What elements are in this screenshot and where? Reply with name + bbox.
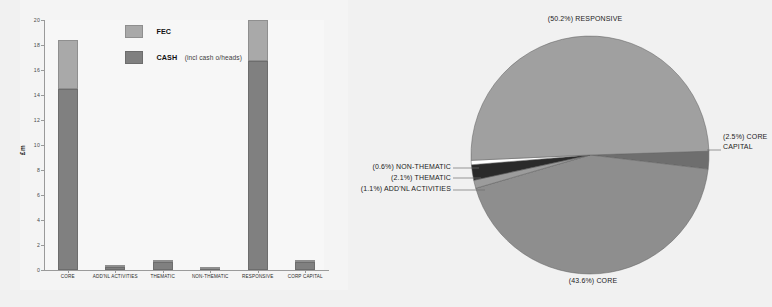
y-axis-tick-mark <box>41 120 44 121</box>
legend-swatch-fec-icon <box>125 25 143 38</box>
legend-item-fec: FEC <box>125 22 242 34</box>
pie-slice[interactable] <box>471 36 709 160</box>
bar-segment-fec[interactable] <box>153 260 173 262</box>
y-axis-tick-label: 18 <box>34 42 40 48</box>
y-axis-tick-mark <box>41 220 44 221</box>
y-axis-tick-label: 14 <box>34 92 40 98</box>
bar-group[interactable] <box>295 20 315 270</box>
y-axis-title: £m <box>19 145 26 155</box>
x-axis-tick-label: RESPONSIVE <box>242 274 273 279</box>
x-axis-tick-mark <box>68 270 69 273</box>
y-axis-tick-label: 6 <box>37 192 40 198</box>
pie-callout-non-thematic: (0.6%) NON-THEMATIC <box>372 162 451 172</box>
pie-chart-svg <box>380 0 772 307</box>
y-axis-line <box>44 20 45 270</box>
y-axis-tick-mark <box>41 145 44 146</box>
y-axis-tick-mark <box>41 270 44 271</box>
legend-sublabel-cash: (incl cash o/heads) <box>185 54 242 61</box>
chart-page: £m 02468101214161820 COREADD'NL ACTIVITI… <box>0 0 772 307</box>
y-axis-tick-mark <box>41 245 44 246</box>
bar-group[interactable] <box>248 20 268 270</box>
pie-callout-core-capital-line1: (2.5%) CORE <box>723 133 767 140</box>
legend-swatch-cash-icon <box>125 51 143 64</box>
bar-segment-cash[interactable] <box>153 262 173 270</box>
y-axis-tick-mark <box>41 95 44 96</box>
pie-callout-core: (43.6%) CORE <box>569 276 617 286</box>
legend-label-cash: CASH <box>156 53 177 62</box>
y-axis-tick-label: 12 <box>34 117 40 123</box>
y-axis-tick-label: 10 <box>34 142 40 148</box>
bar-segment-fec[interactable] <box>295 260 315 262</box>
y-axis-tick-label: 0 <box>37 267 40 273</box>
y-axis-tick-label: 8 <box>37 167 40 173</box>
pie-callout-responsive: (50.2%) RESPONSIVE <box>548 14 623 24</box>
x-axis-tick-mark <box>115 270 116 273</box>
bar-segment-fec[interactable] <box>58 40 78 89</box>
bar-group[interactable] <box>105 20 125 270</box>
bar-segment-cash[interactable] <box>58 89 78 270</box>
pie-slices-group <box>471 36 709 274</box>
pie-chart-panel: (50.2%) RESPONSIVE (43.6%) CORE (2.5%) C… <box>380 0 772 307</box>
x-axis-tick-mark <box>305 270 306 273</box>
legend-item-cash: CASH (incl cash o/heads) <box>125 48 242 60</box>
legend-label-fec: FEC <box>156 27 171 36</box>
bar-chart-panel: £m 02468101214161820 COREADD'NL ACTIVITI… <box>0 0 380 307</box>
y-axis-tick-mark <box>41 170 44 171</box>
bar-segment-fec[interactable] <box>105 265 125 267</box>
x-axis-tick-mark <box>258 270 259 273</box>
y-axis-tick-mark <box>41 70 44 71</box>
y-axis-tick-mark <box>41 20 44 21</box>
x-axis-tick-mark <box>163 270 164 273</box>
pie-callout-thematic: (2.1%) THEMATIC <box>391 173 451 183</box>
y-axis-tick-mark <box>41 195 44 196</box>
pie-callout-core-capital-line2: CAPITAL <box>723 143 753 150</box>
pie-callout-addnl-activities: (1.1%) ADD'NL ACTIVITIES <box>361 184 451 194</box>
y-axis-tick-label: 2 <box>37 242 40 248</box>
bar-segment-fec[interactable] <box>200 267 220 269</box>
x-axis-tick-label: CORP CAPITAL <box>288 274 323 279</box>
y-axis-tick-label: 4 <box>37 217 40 223</box>
bar-chart-legend: FEC CASH (incl cash o/heads) <box>125 22 242 74</box>
bar-group[interactable] <box>58 20 78 270</box>
y-axis-tick-mark <box>41 45 44 46</box>
x-axis-tick-label: CORE <box>61 274 75 279</box>
x-axis-tick-label: NON-THEMATIC <box>192 274 229 279</box>
pie-callout-core-capital: (2.5%) CORE CAPITAL <box>723 132 767 152</box>
x-axis-tick-label: ADD'NL ACTIVITIES <box>93 274 138 279</box>
bar-segment-cash[interactable] <box>295 262 315 270</box>
x-axis-line <box>44 270 329 271</box>
x-axis-tick-label: THEMATIC <box>151 274 175 279</box>
y-axis-tick-label: 16 <box>34 67 40 73</box>
bar-segment-fec[interactable] <box>248 20 268 61</box>
y-axis-tick-label: 20 <box>34 17 40 23</box>
bar-segment-cash[interactable] <box>248 61 268 270</box>
x-axis-tick-mark <box>210 270 211 273</box>
